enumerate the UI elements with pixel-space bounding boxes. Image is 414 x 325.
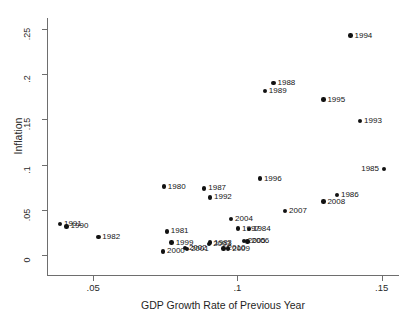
data-point [221,246,225,250]
x-tick-label: .05 [73,282,113,293]
data-point-label: 1980 [168,183,186,191]
x-axis-title: GDP Growth Rate of Previous Year [47,299,399,311]
data-point-label: 1994 [355,32,373,40]
y-tick-label: 0 [14,249,40,261]
scatter-plot-figure: 0.05.1.15.2.25 .05.1.15 1980198119821983… [0,0,414,325]
x-tick-mark [93,276,94,281]
x-tick-mark [237,276,238,281]
data-point [321,97,325,101]
y-tick-mark [42,165,47,166]
data-point [96,235,100,239]
data-point [263,89,267,93]
data-point-label: 1989 [269,87,287,95]
y-tick-mark [42,29,47,30]
y-tick-mark [42,119,47,120]
data-point-label: 1992 [214,193,232,201]
x-axis-line [47,275,399,276]
data-point-label: 2000 [167,247,185,255]
y-tick-mark [42,255,47,256]
data-point [169,240,173,244]
x-tick-mark [382,276,383,281]
data-point-label: 2008 [327,198,345,206]
data-point-label: 1982 [102,233,120,241]
data-point-label: 2007 [289,207,307,215]
data-point-label: 1996 [264,175,282,183]
data-point-label: 2004 [235,215,253,223]
data-point-label: 2006 [252,237,270,245]
data-point-label: 1997 [242,225,260,233]
y-axis-title: Inflation [12,96,24,176]
data-point [236,226,240,230]
data-point-label: 1987 [208,184,226,192]
data-point-label: 1991 [64,220,82,228]
y-tick-mark [42,74,47,75]
data-point [321,199,325,203]
data-point [271,81,275,85]
data-point-label: 1985 [361,165,379,173]
x-tick-label: .15 [362,282,402,293]
data-point [258,176,262,180]
data-point [202,186,206,190]
y-tick-label: .2 [14,68,40,80]
data-point-label: 2002 [189,244,207,252]
y-axis-line [47,18,48,275]
data-point-label: 2010 [228,244,246,252]
y-tick-label: .05 [14,204,40,216]
y-tick-mark [42,210,47,211]
data-point-label: 1981 [171,227,189,235]
data-point [208,195,212,199]
y-tick-label: .25 [14,23,40,35]
data-point [348,33,352,37]
data-point [162,184,166,188]
data-point-label: 1993 [364,117,382,125]
data-point-label: 1995 [327,96,345,104]
data-point [165,229,169,233]
x-tick-label: .1 [217,282,257,293]
data-point [161,249,165,253]
